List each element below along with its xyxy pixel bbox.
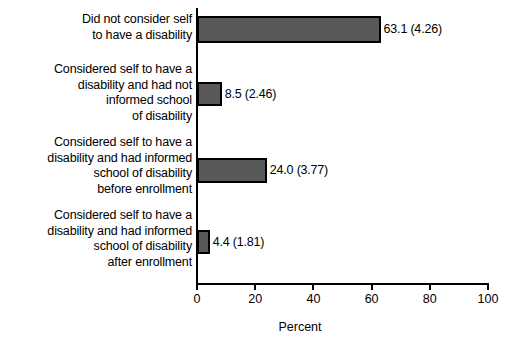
x-tick-label-0: 0 [194, 292, 201, 307]
bar-chart: Did not consider self to have a disabili… [0, 0, 508, 345]
category-label-2: Considered self to have a disability and… [0, 62, 192, 124]
x-tick-100 [487, 283, 489, 290]
bar-did-not-consider-self [197, 16, 381, 43]
x-axis-title-text: Percent [278, 320, 321, 334]
bar-value-label-3: 24.0 (3.77) [270, 163, 328, 177]
x-tick-label-80: 80 [423, 292, 437, 307]
plot-area: 63.1 (4.26) 8.5 (2.46) 24.0 (3.77) 4.4 (… [196, 8, 487, 283]
x-tick-40 [312, 283, 314, 290]
x-tick-80 [429, 283, 431, 290]
bar-value-label-2: 8.5 (2.46) [225, 87, 277, 101]
x-tick-label-20: 20 [248, 292, 262, 307]
category-label-4: Considered self to have a disability and… [0, 208, 192, 270]
bar-informed-before-enrollment [197, 158, 267, 183]
x-tick-label-40: 40 [306, 292, 320, 307]
bar-informed-after-enrollment [197, 230, 210, 254]
x-tick-label-60: 60 [365, 292, 379, 307]
category-label-3: Considered self to have a disability and… [0, 135, 192, 197]
x-axis-title: Percent [0, 320, 508, 334]
x-tick-label-100: 100 [478, 292, 499, 307]
bar-not-informed-school [197, 82, 222, 106]
x-tick-20 [254, 283, 256, 290]
x-tick-0 [196, 283, 198, 290]
bar-value-label-4: 4.4 (1.81) [213, 235, 265, 249]
bar-value-label-1: 63.1 (4.26) [384, 22, 442, 36]
category-label-1: Did not consider self to have a disabili… [0, 12, 192, 43]
x-axis-line [196, 283, 487, 285]
x-tick-60 [371, 283, 373, 290]
